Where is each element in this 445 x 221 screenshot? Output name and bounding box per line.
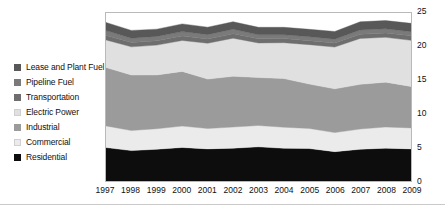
legend-item[interactable]: Commercial — [14, 135, 110, 150]
legend-swatch-icon — [14, 139, 21, 146]
y-axis: 2520151050 — [417, 0, 443, 200]
legend-item[interactable]: Residential — [14, 150, 110, 165]
x-axis-tick-label: 2006 — [326, 186, 345, 195]
legend-label: Commercial — [26, 138, 70, 147]
legend-item[interactable]: Lease and Plant Fuel — [14, 60, 110, 75]
legend-item[interactable]: Transportation — [14, 90, 110, 105]
legend-item[interactable]: Industrial — [14, 120, 110, 135]
legend-label: Pipeline Fuel — [26, 78, 74, 87]
plot-area — [105, 12, 412, 182]
legend-swatch-icon — [14, 154, 21, 161]
legend-swatch-icon — [14, 79, 21, 86]
stacked-area-chart: Lease and Plant FuelPipeline FuelTranspo… — [0, 0, 445, 221]
y-axis-tick-label: 20 — [417, 41, 426, 50]
x-axis: 1997199819992000200120022003200420052006… — [105, 186, 412, 200]
x-axis-tick-label: 2009 — [403, 186, 422, 195]
x-axis-tick-label: 2001 — [198, 186, 217, 195]
x-axis-tick-label: 2004 — [275, 186, 294, 195]
legend-label: Electric Power — [26, 108, 79, 117]
chart-legend: Lease and Plant FuelPipeline FuelTranspo… — [14, 60, 110, 165]
x-axis-tick-label: 1997 — [96, 186, 115, 195]
area-series-residential — [106, 147, 411, 181]
x-axis-tick-label: 2008 — [377, 186, 396, 195]
x-axis-tick-label: 2005 — [300, 186, 319, 195]
plot-svg — [106, 13, 411, 181]
x-axis-tick-label: 2007 — [351, 186, 370, 195]
legend-swatch-icon — [14, 124, 21, 131]
x-axis-tick-label: 1999 — [147, 186, 166, 195]
bottom-divider — [0, 204, 445, 205]
legend-swatch-icon — [14, 64, 21, 71]
legend-label: Transportation — [26, 93, 79, 102]
y-axis-tick-label: 25 — [417, 7, 426, 16]
x-axis-tick-label: 1998 — [121, 186, 140, 195]
legend-item[interactable]: Pipeline Fuel — [14, 75, 110, 90]
x-axis-tick-label: 2000 — [172, 186, 191, 195]
legend-label: Lease and Plant Fuel — [26, 63, 104, 72]
y-axis-tick-label: 5 — [417, 143, 422, 152]
legend-swatch-icon — [14, 109, 21, 116]
x-axis-tick-label: 2003 — [249, 186, 268, 195]
y-axis-tick-label: 10 — [417, 109, 426, 118]
legend-swatch-icon — [14, 94, 21, 101]
x-axis-tick-label: 2002 — [223, 186, 242, 195]
legend-item[interactable]: Electric Power — [14, 105, 110, 120]
legend-label: Residential — [26, 153, 67, 162]
y-axis-tick-label: 15 — [417, 75, 426, 84]
legend-label: Industrial — [26, 123, 60, 132]
